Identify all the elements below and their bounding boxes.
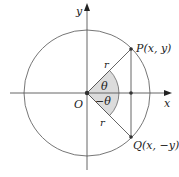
point-p-label: P(x, y) <box>135 42 171 55</box>
point-p <box>129 47 133 51</box>
x-axis-arrow-icon <box>164 90 172 96</box>
radius-label-upper: r <box>104 59 110 70</box>
radius-label-lower: r <box>100 117 106 128</box>
angle-theta-label: θ <box>101 80 108 93</box>
angle-neg-theta-label: −θ <box>95 95 111 108</box>
circle-diagram: y x O P(x, y) Q(x, −y) r r θ −θ <box>0 0 179 177</box>
origin-point <box>85 91 89 95</box>
point-q-label: Q(x, −y) <box>133 139 179 152</box>
y-axis-label: y <box>75 5 83 18</box>
origin-label: O <box>74 98 83 111</box>
point-x-intercept <box>129 91 133 95</box>
y-axis-arrow-icon <box>84 3 90 11</box>
x-axis-label: x <box>164 97 171 110</box>
